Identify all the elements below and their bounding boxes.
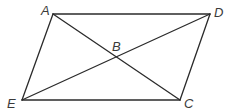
label-C: C	[184, 96, 194, 111]
diagram-canvas: A D E C B	[0, 0, 237, 112]
segment-EA	[22, 14, 53, 100]
label-D: D	[214, 5, 223, 20]
label-A: A	[40, 3, 50, 18]
segments	[22, 14, 210, 100]
parallelogram-diagram: A D E C B	[0, 0, 237, 112]
diagonal-ED	[22, 14, 210, 100]
segment-DC	[180, 14, 210, 100]
label-B: B	[112, 39, 121, 54]
label-E: E	[7, 96, 16, 111]
